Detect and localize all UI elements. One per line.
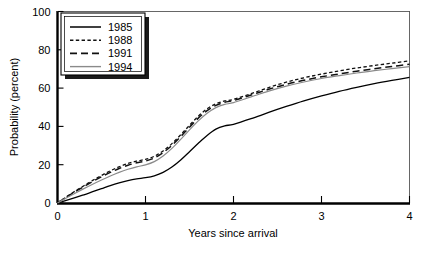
chart-legend: 1985198819911994 (61, 13, 149, 79)
x-tick-label: 2 (230, 210, 236, 222)
x-tick-label: 3 (318, 210, 324, 222)
legend-label-1994: 1994 (108, 61, 132, 73)
y-tick-label: 60 (38, 82, 50, 94)
x-axis-title: Years since arrival (188, 227, 277, 239)
x-tick-label: 1 (142, 210, 148, 222)
x-tick-label: 0 (54, 210, 60, 222)
y-tick-label: 100 (32, 6, 50, 18)
y-axis-title: Probability (percent) (8, 58, 20, 156)
x-tick-label: 4 (406, 210, 412, 222)
y-tick-label: 80 (38, 44, 50, 56)
legend-label-1985: 1985 (108, 21, 132, 33)
y-tick-label: 20 (38, 159, 50, 171)
figure-container: 020406080100 01234 Probability (percent)… (0, 0, 426, 263)
probability-line-chart: 020406080100 01234 Probability (percent)… (0, 0, 426, 263)
legend-label-1988: 1988 (108, 34, 132, 46)
legend-label-1991: 1991 (108, 47, 132, 59)
y-tick-label: 0 (44, 197, 50, 209)
y-tick-label: 40 (38, 120, 50, 132)
